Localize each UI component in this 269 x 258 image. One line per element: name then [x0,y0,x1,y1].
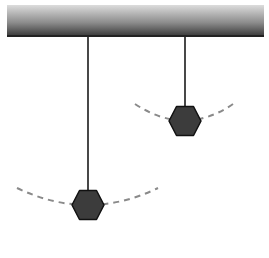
pendulum-diagram [0,0,269,258]
short-pendulum [135,37,233,136]
support-bar [7,5,264,37]
long-pendulum [17,37,158,220]
support-bar-edge [7,35,264,37]
bob-hexagon-short [169,107,201,136]
bob-hexagon-long [72,191,104,220]
